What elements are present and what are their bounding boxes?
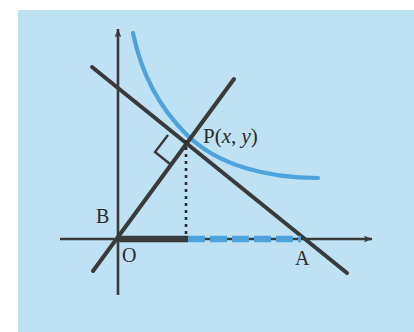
point-label-a: A (295, 248, 309, 268)
right-angle-icon (155, 135, 170, 164)
point-label-p-y: y (242, 124, 251, 148)
point-label-p-text: P( (203, 124, 222, 148)
point-label-b: B (96, 206, 109, 226)
origin-label: O (122, 245, 136, 265)
point-label-p-comma: , (231, 124, 242, 148)
point-label-p-close: ) (251, 124, 258, 148)
point-label-p: P(x, y) (203, 126, 258, 147)
point-label-p-x: x (222, 124, 231, 148)
geometry-diagram (0, 0, 414, 332)
figure-container: P(x, y) B O A (0, 0, 414, 332)
